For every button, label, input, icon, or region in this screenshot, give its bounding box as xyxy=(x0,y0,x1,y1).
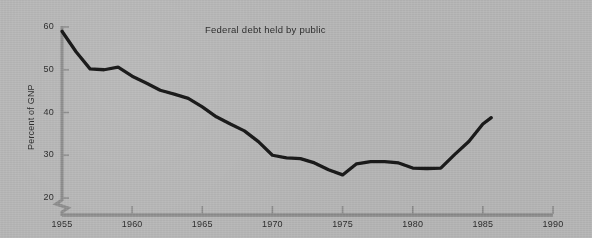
x-tick-label: 1955 xyxy=(42,219,82,229)
y-tick-label: 50 xyxy=(26,64,54,74)
x-axis-ticks xyxy=(132,206,553,214)
x-tick-label: 1960 xyxy=(112,219,152,229)
y-tick-label: 60 xyxy=(26,21,54,31)
data-series-line xyxy=(62,31,491,175)
x-tick-label: 1975 xyxy=(323,219,363,229)
plot-area xyxy=(0,0,592,238)
y-tick-label: 40 xyxy=(26,107,54,117)
y-axis-break-icon xyxy=(56,196,68,216)
x-tick-label: 1985 xyxy=(463,219,503,229)
x-tick-label: 1990 xyxy=(533,219,573,229)
chart-figure: Federal debt held by public Percent of G… xyxy=(0,0,592,238)
y-tick-label: 30 xyxy=(26,149,54,159)
x-tick-label: 1980 xyxy=(393,219,433,229)
y-tick-label: 20 xyxy=(26,192,54,202)
x-tick-label: 1965 xyxy=(182,219,222,229)
x-tick-label: 1970 xyxy=(252,219,292,229)
